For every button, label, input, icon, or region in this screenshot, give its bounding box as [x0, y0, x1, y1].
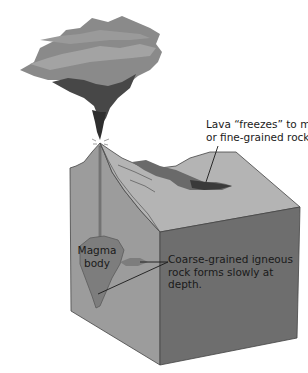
- coarse-grained-label: Coarse-grained igneous rock forms slowly…: [168, 253, 293, 291]
- ash-cloud: [20, 16, 162, 140]
- coarse-label-line-1: Coarse-grained igneous: [168, 253, 293, 266]
- diagram-artwork: [0, 0, 308, 373]
- lava-label-line-1: Lava “freezes” to make glassy: [206, 118, 308, 131]
- magma-conduit: [99, 146, 101, 238]
- volcano-diagram: Lava “freezes” to make glassy or fine-gr…: [0, 0, 308, 373]
- lava-label: Lava “freezes” to make glassy or fine-gr…: [206, 118, 308, 143]
- lava-label-line-2: or fine-grained rock.: [206, 131, 308, 144]
- coarse-label-line-3: depth.: [168, 278, 293, 291]
- coarse-label-line-2: rock forms slowly at: [168, 266, 293, 279]
- magma-body-label: Magma body: [74, 244, 120, 269]
- magma-label-line-2: body: [74, 257, 120, 270]
- magma-label-line-1: Magma: [74, 244, 120, 257]
